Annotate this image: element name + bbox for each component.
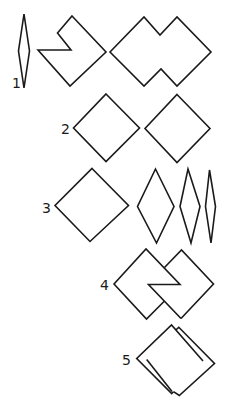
row-3: 3 bbox=[42, 169, 216, 244]
inner-line-lower bbox=[147, 360, 172, 392]
rhombus-wide bbox=[138, 169, 175, 243]
shape-sequence-diagram: 1 2 3 4 5 bbox=[0, 0, 231, 420]
double-square-merged bbox=[110, 17, 211, 86]
row-1: 1 bbox=[12, 14, 211, 91]
row-5: 5 bbox=[122, 325, 215, 396]
square-b bbox=[145, 95, 210, 163]
row-label-5: 5 bbox=[122, 352, 131, 368]
back-square-outline bbox=[174, 327, 215, 395]
row-label-4: 4 bbox=[100, 277, 109, 293]
row-2: 2 bbox=[61, 94, 210, 163]
rhombus-narrow bbox=[206, 170, 216, 243]
rhombus-medium bbox=[180, 169, 200, 243]
interlock-left-outline bbox=[114, 249, 181, 319]
square bbox=[55, 169, 129, 242]
notched-square bbox=[38, 16, 106, 86]
row-label-3: 3 bbox=[42, 200, 51, 216]
row-label-1: 1 bbox=[12, 75, 21, 91]
row-4: 4 bbox=[100, 249, 214, 319]
square-a bbox=[74, 94, 140, 162]
row-label-2: 2 bbox=[61, 121, 70, 137]
